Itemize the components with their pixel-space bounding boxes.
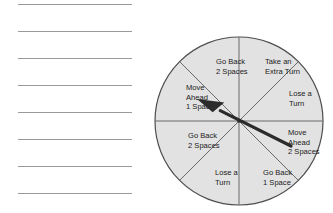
writing-line[interactable] (18, 193, 132, 194)
writing-line[interactable] (18, 31, 132, 32)
writing-lines-panel (0, 0, 145, 213)
writing-line[interactable] (18, 139, 132, 140)
writing-line[interactable] (18, 112, 132, 113)
segment-go-back-2-spaces-left-label: Go Back2 Spaces (188, 131, 220, 150)
segment-go-back-1-space-label: Go Back1 Space (263, 168, 292, 187)
writing-line[interactable] (18, 4, 132, 5)
writing-line[interactable] (18, 166, 132, 167)
writing-line[interactable] (18, 85, 132, 86)
writing-line[interactable] (18, 58, 132, 59)
spinner-wheel[interactable]: Take anExtra TurnLose aTurnMoveAhead2 Sp… (150, 28, 333, 213)
worksheet-page: Take anExtra TurnLose aTurnMoveAhead2 Sp… (0, 0, 333, 213)
spinner-hub[interactable] (237, 119, 241, 123)
segment-go-back-2-spaces-top-label: Go Back2 Spaces (216, 57, 248, 76)
spinner-container[interactable]: Take anExtra TurnLose aTurnMoveAhead2 Sp… (150, 28, 333, 213)
